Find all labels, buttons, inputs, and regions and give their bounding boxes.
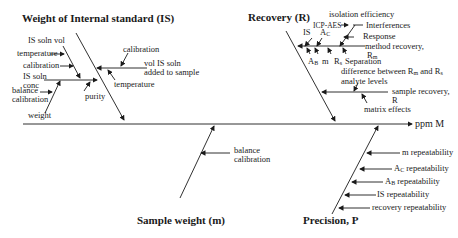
cause-difference-text: difference between R xyxy=(341,66,414,76)
cause-interferences: Interferences xyxy=(366,21,410,30)
cause-is: IS xyxy=(303,28,311,37)
cause-is-repeatability: IS repeatability xyxy=(377,190,429,199)
category-sample-weight-title: Sample weight (m) xyxy=(137,214,225,226)
cause-sample-recovery: sample recovery, xyxy=(392,87,450,96)
cause-vol-is-soln: vol IS soln added to sample xyxy=(144,59,200,77)
cause-ac: AC xyxy=(320,28,330,39)
cause-recovery-repeatability: recovery repeatability xyxy=(372,203,446,212)
cause-purity: purity xyxy=(85,92,105,101)
cause-ac-rep-text: repeatability xyxy=(404,163,449,173)
cause-separation: Separation xyxy=(345,57,381,66)
cause-difference-sub2: s xyxy=(440,70,442,76)
cause-ab-rep-text: repeatability xyxy=(395,176,440,186)
cause-calibration-2: calibration xyxy=(123,45,159,54)
cause-ab-sub: B xyxy=(314,60,318,66)
cause-is-soln-vol: IS soln vol xyxy=(28,36,65,45)
effect-label: ppm M xyxy=(415,119,444,128)
cause-ab: AB xyxy=(308,57,318,68)
cause-m: m xyxy=(322,57,329,66)
cause-balance-calibration-sw: calibration xyxy=(234,155,270,164)
cause-balance-calibration-text: balance calibration xyxy=(12,86,44,104)
cause-isolation-efficiency: isolation efficiency xyxy=(329,10,394,19)
cause-analyte-levels: analyte levels xyxy=(341,77,388,86)
cause-calibration: calibration xyxy=(23,61,59,70)
cause-temperature-2: temperature xyxy=(114,80,155,89)
category-weight-is-title: Weight of Internal standard (IS) xyxy=(22,12,174,24)
cause-vol-is-soln-text: vol IS soln added to sample xyxy=(144,59,200,77)
cause-balance-calibration: balance calibration xyxy=(12,86,44,104)
cause-ac-repeatability: AC repeatability xyxy=(394,164,449,175)
cause-method-recovery: method recovery, xyxy=(365,42,424,51)
cause-temperature: temperature xyxy=(17,49,58,58)
cause-m-repeatability: m repeatability xyxy=(402,148,453,157)
category-precision-title: Precision, P xyxy=(303,214,358,226)
cause-matrix-effects: matrix effects xyxy=(364,105,411,114)
cause-weight: weight xyxy=(28,111,51,120)
category-recovery-title: Recovery (R) xyxy=(248,11,310,23)
cause-difference-and: and R xyxy=(418,66,440,76)
cause-ab-repeatability: AB repeatability xyxy=(385,177,440,188)
cause-ac-sub: C xyxy=(326,31,330,37)
cause-response: Response xyxy=(363,32,396,41)
